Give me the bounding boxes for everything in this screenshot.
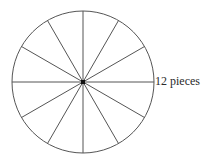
division-line bbox=[83, 21, 119, 82]
division-line bbox=[83, 82, 119, 143]
division-line bbox=[48, 82, 84, 143]
division-line bbox=[22, 82, 83, 118]
division-line bbox=[48, 21, 84, 82]
division-line bbox=[83, 82, 144, 118]
division-line bbox=[83, 47, 144, 83]
division-line bbox=[22, 47, 83, 83]
pieces-label: 12 pieces bbox=[155, 74, 200, 88]
center-point bbox=[81, 80, 85, 84]
